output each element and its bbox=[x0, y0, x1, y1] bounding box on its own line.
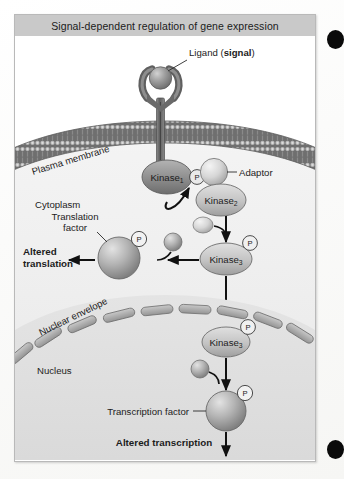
phosphate-translation-factor: P bbox=[131, 231, 146, 246]
svg-text:Kinase1: Kinase1 bbox=[150, 172, 183, 185]
kinase2-subscript: 2 bbox=[234, 200, 238, 207]
figure-title: Signal-dependent regulation of gene expr… bbox=[51, 20, 279, 32]
nucleus-label: Nucleus bbox=[37, 365, 72, 376]
kinase1-subscript: 1 bbox=[180, 177, 184, 184]
ligand-leader-line bbox=[168, 60, 187, 71]
phosphate-glyph: P bbox=[247, 239, 252, 248]
phosphate-glyph: P bbox=[242, 389, 247, 398]
phosphate-donor-sphere-1 bbox=[193, 217, 213, 233]
kinase3-cyto-subscript: 3 bbox=[239, 259, 243, 266]
figure-frame: Signal-dependent regulation of gene expr… bbox=[14, 14, 316, 462]
adaptor-molecule bbox=[200, 158, 227, 185]
svg-text:Kinase3: Kinase3 bbox=[209, 254, 242, 267]
phosphate-kinase3-nucleus: P bbox=[241, 320, 256, 335]
page-artifact-dot-bottom bbox=[327, 440, 344, 459]
altered-transcription-label: Altered transcription bbox=[14, 437, 314, 448]
translation-factor-label-line2: factor bbox=[63, 222, 88, 233]
phosphate-glyph: P bbox=[136, 235, 141, 244]
phosphate-glyph: P bbox=[245, 323, 250, 332]
kinase3-nuc-name: Kinase bbox=[209, 337, 238, 348]
kinase1-molecule: Kinase1 bbox=[142, 160, 192, 194]
phosphate-donor-sphere-3 bbox=[191, 360, 209, 378]
cytoplasm-label: Cytoplasm bbox=[35, 199, 80, 210]
phosphate-kinase3-cytoplasm: P bbox=[243, 236, 258, 251]
phosphate-glyph: P bbox=[194, 173, 199, 182]
adaptor-label: Adaptor bbox=[239, 167, 273, 178]
phosphate-donor-sphere-2 bbox=[164, 233, 182, 251]
ligand-molecule bbox=[149, 67, 171, 89]
figure-title-bar: Signal-dependent regulation of gene expr… bbox=[15, 15, 315, 37]
kinase1-name: Kinase bbox=[150, 172, 179, 183]
page-artifact-dot-top bbox=[327, 30, 344, 49]
kinase2-name: Kinase bbox=[204, 195, 233, 206]
altered-translation-label-line1: Altered bbox=[23, 246, 57, 257]
diagram-canvas: Ligand (signal) Plasma membrane Cytoplas… bbox=[15, 36, 315, 460]
svg-text:Kinase2: Kinase2 bbox=[204, 195, 237, 208]
kinase3-cyto-name: Kinase bbox=[209, 254, 238, 265]
translation-factor-label-line1: Translation bbox=[51, 211, 98, 222]
figure-page: Signal-dependent regulation of gene expr… bbox=[0, 0, 344, 479]
transcription-factor-label: Transcription factor bbox=[107, 406, 190, 417]
kinase2-molecule: Kinase2 bbox=[196, 184, 246, 216]
phosphate-transcription-factor: P bbox=[237, 385, 252, 400]
svg-text:Kinase3: Kinase3 bbox=[209, 337, 242, 350]
altered-translation-label-line2: translation bbox=[23, 258, 73, 269]
kinase3-nuc-subscript: 3 bbox=[239, 342, 243, 349]
ligand-label: Ligand (signal) bbox=[189, 47, 255, 58]
